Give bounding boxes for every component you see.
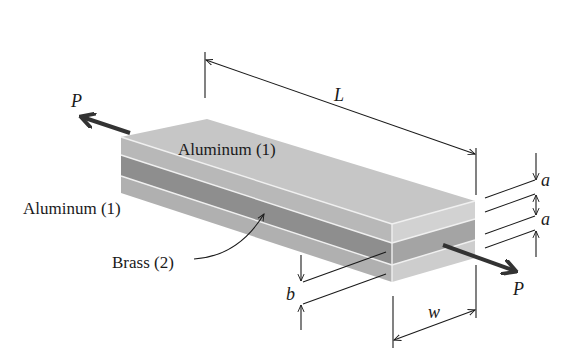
- aluminum-left-label: Aluminum (1): [23, 199, 121, 218]
- brass-thickness-label: b: [286, 284, 295, 304]
- layered-bar: [121, 119, 475, 282]
- thickness-a-bottom-label: a: [541, 209, 550, 229]
- length-label: L: [333, 85, 344, 105]
- load-arrow-left: [82, 117, 130, 133]
- layered-bar-diagram: P P L a a b w Aluminum (1) Aluminum (1) …: [0, 0, 566, 358]
- load-label-right: P: [512, 279, 524, 299]
- load-label-left: P: [70, 91, 82, 111]
- thickness-a-top-label: a: [541, 170, 550, 190]
- thickness-a-dimensions: [485, 153, 536, 257]
- aluminum-top-label: Aluminum (1): [178, 140, 276, 159]
- width-label: w: [428, 302, 440, 322]
- brass-label: Brass (2): [112, 253, 174, 272]
